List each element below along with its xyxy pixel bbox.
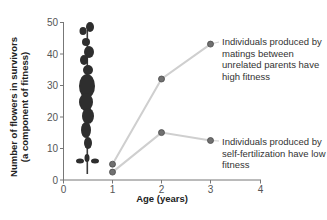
svg-text:10: 10 <box>47 143 59 154</box>
plant-silhouette-icon <box>76 22 99 174</box>
svg-text:0: 0 <box>61 184 67 195</box>
line-chart: 50 40 30 20 10 0 0 1 2 3 4 <box>0 0 327 220</box>
svg-text:1: 1 <box>110 184 116 195</box>
svg-text:3: 3 <box>208 184 214 195</box>
svg-text:30: 30 <box>47 80 59 91</box>
y-axis <box>60 22 64 180</box>
svg-text:4: 4 <box>258 184 264 195</box>
x-axis <box>64 180 262 184</box>
svg-text:50: 50 <box>47 17 59 28</box>
svg-text:0: 0 <box>52 175 58 186</box>
y-axis-label: Number of flowers in survivors (a compon… <box>8 32 38 182</box>
y-tick-labels: 50 40 30 20 10 0 <box>47 17 59 186</box>
y-axis-label-line1: Number of flowers in survivors <box>8 32 19 182</box>
annotation-low-fitness: Individuals produced by self-fertilizati… <box>222 136 327 171</box>
svg-text:20: 20 <box>47 112 59 123</box>
series-outcrossed-points <box>110 41 214 167</box>
annotation-high-fitness: Individuals produced by matings between … <box>222 36 327 82</box>
svg-text:40: 40 <box>47 49 59 60</box>
y-axis-label-line2: (a component of fitness) <box>19 32 30 182</box>
series-selfed-points <box>110 130 214 176</box>
x-axis-label: Age (years) <box>120 193 204 204</box>
series-outcrossed-line <box>113 44 211 164</box>
